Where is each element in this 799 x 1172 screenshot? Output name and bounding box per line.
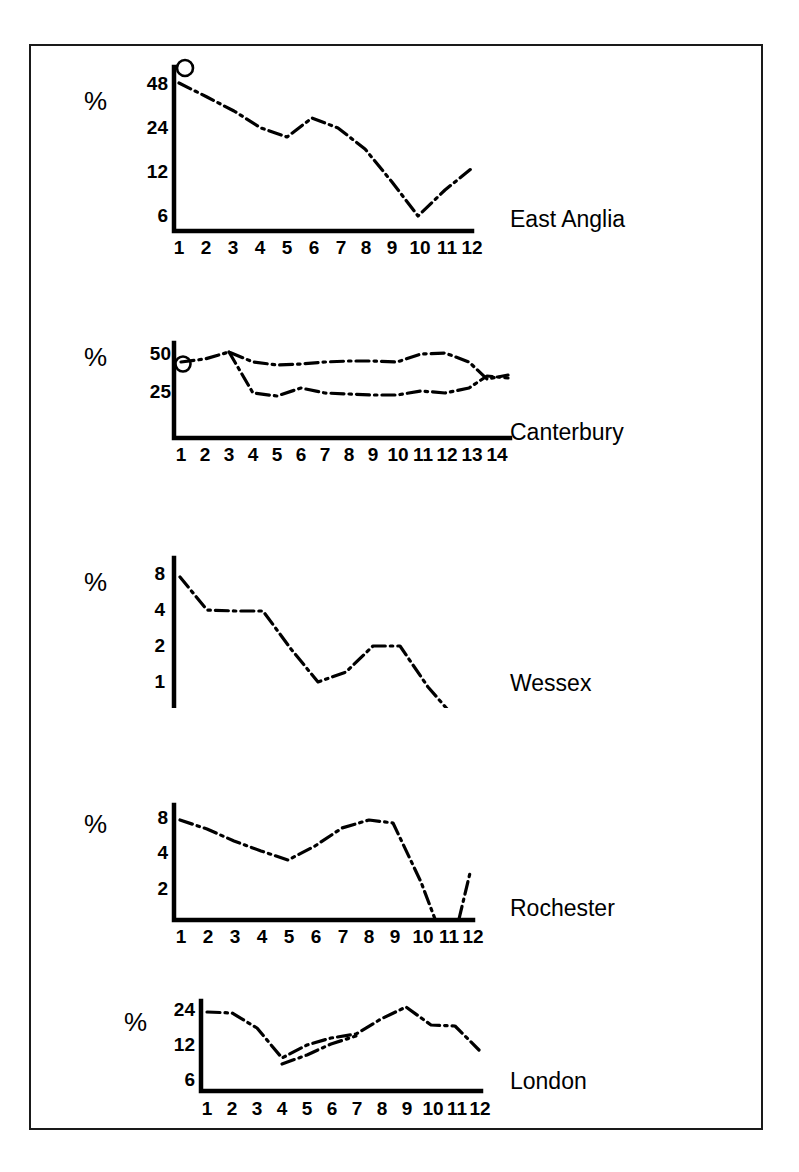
x-tick-london-7: 7 bbox=[352, 1098, 363, 1119]
x-tick-rochester-7: 7 bbox=[338, 926, 349, 945]
x-tick-rochester-10: 10 bbox=[412, 926, 433, 945]
y-tick-canterbury-50: 50 bbox=[150, 343, 171, 364]
x-tick-east-anglia-10: 10 bbox=[409, 237, 430, 258]
region-label-rochester: Rochester bbox=[510, 895, 615, 922]
x-tick-london-8: 8 bbox=[377, 1098, 388, 1119]
x-tick-rochester-3: 3 bbox=[230, 926, 241, 945]
chart-panel-london: % 24 12 6 1 2 3 4 5 6 7 8 bbox=[31, 976, 761, 1121]
data-line-rochester-main bbox=[180, 820, 435, 919]
x-tick-canterbury-12: 12 bbox=[436, 444, 457, 465]
x-tick-canterbury-7: 7 bbox=[320, 444, 331, 465]
x-tick-london-12: 12 bbox=[469, 1098, 490, 1119]
y-tick-east-anglia-6: 6 bbox=[157, 205, 168, 226]
y-tick-wessex-4: 4 bbox=[154, 599, 165, 620]
x-tick-canterbury-10: 10 bbox=[387, 444, 408, 465]
y-unit-label-wessex: % bbox=[84, 567, 107, 597]
svg-london: % 24 12 6 1 2 3 4 5 6 7 8 bbox=[35, 976, 505, 1126]
svg-canterbury: % 50 25 1 2 3 4 5 6 7 8 bbox=[35, 326, 555, 476]
y-unit-label-london: % bbox=[124, 1007, 147, 1037]
y-unit-label-canterbury: % bbox=[84, 342, 107, 372]
x-tick-rochester-12: 12 bbox=[462, 926, 483, 945]
x-tick-canterbury-1: 1 bbox=[176, 444, 187, 465]
figure-frame: % 48 24 12 6 1 2 3 4 5 bbox=[29, 44, 763, 1130]
chart-panel-canterbury: % 50 25 1 2 3 4 5 6 7 8 bbox=[31, 326, 761, 476]
start-marker-circle-east-anglia bbox=[177, 60, 193, 76]
x-tick-rochester-2: 2 bbox=[203, 926, 214, 945]
x-tick-london-1: 1 bbox=[202, 1098, 213, 1119]
data-line-london-upper bbox=[207, 1007, 479, 1058]
x-tick-rochester-1: 1 bbox=[176, 926, 187, 945]
x-tick-london-10: 10 bbox=[422, 1098, 443, 1119]
data-line-east-anglia bbox=[179, 83, 471, 216]
y-tick-wessex-2: 2 bbox=[154, 635, 165, 656]
x-tick-london-5: 5 bbox=[302, 1098, 313, 1119]
chart-panel-east-anglia: % 48 24 12 6 1 2 3 4 5 bbox=[31, 46, 761, 278]
y-tick-east-anglia-48: 48 bbox=[147, 73, 168, 94]
data-line-rochester-rebound bbox=[459, 873, 470, 919]
x-tick-rochester-5: 5 bbox=[284, 926, 295, 945]
y-tick-wessex-8: 8 bbox=[154, 563, 165, 584]
svg-east-anglia: % 48 24 12 6 1 2 3 4 5 bbox=[35, 46, 505, 278]
x-tick-rochester-4: 4 bbox=[257, 926, 268, 945]
y-tick-london-24: 24 bbox=[174, 999, 196, 1020]
x-tick-rochester-9: 9 bbox=[390, 926, 401, 945]
x-tick-rochester-8: 8 bbox=[364, 926, 375, 945]
x-tick-east-anglia-8: 8 bbox=[361, 237, 372, 258]
x-tick-canterbury-4: 4 bbox=[248, 444, 259, 465]
data-line-wessex bbox=[180, 577, 448, 708]
y-tick-wessex-1: 1 bbox=[154, 671, 165, 692]
y-tick-rochester-4: 4 bbox=[157, 842, 168, 863]
y-tick-rochester-8: 8 bbox=[157, 807, 168, 828]
x-tick-london-9: 9 bbox=[402, 1098, 413, 1119]
y-tick-canterbury-25: 25 bbox=[150, 381, 172, 402]
region-label-canterbury: Canterbury bbox=[510, 419, 624, 446]
x-tick-canterbury-14: 14 bbox=[486, 444, 508, 465]
region-label-wessex: Wessex bbox=[510, 670, 591, 697]
axes-wessex bbox=[174, 558, 462, 708]
plot-area-east-anglia: % 48 24 12 6 1 2 3 4 5 bbox=[35, 46, 505, 278]
plot-area-wessex: % 8 4 2 1 1 2 3 4 5 6 7 8 9 10 bbox=[35, 518, 505, 708]
axes-london bbox=[201, 1001, 481, 1091]
x-tick-canterbury-2: 2 bbox=[200, 444, 211, 465]
y-tick-london-12: 12 bbox=[174, 1034, 195, 1055]
x-tick-london-3: 3 bbox=[252, 1098, 263, 1119]
x-tick-east-anglia-9: 9 bbox=[387, 237, 398, 258]
x-tick-london-4: 4 bbox=[277, 1098, 288, 1119]
plot-area-canterbury: % 50 25 1 2 3 4 5 6 7 8 bbox=[35, 326, 555, 476]
x-tick-east-anglia-5: 5 bbox=[282, 237, 293, 258]
y-tick-rochester-2: 2 bbox=[157, 878, 168, 899]
svg-wessex: % 8 4 2 1 1 2 3 4 5 6 7 8 9 10 bbox=[35, 518, 505, 708]
x-tick-rochester-6: 6 bbox=[311, 926, 322, 945]
y-unit-label-rochester: % bbox=[84, 809, 107, 839]
chart-panel-rochester: % 8 4 2 1 2 3 4 5 6 7 8 9 10 bbox=[31, 780, 761, 940]
plot-area-rochester: % 8 4 2 1 2 3 4 5 6 7 8 9 10 bbox=[35, 780, 505, 945]
y-tick-east-anglia-12: 12 bbox=[147, 161, 168, 182]
x-tick-canterbury-8: 8 bbox=[344, 444, 355, 465]
x-tick-london-2: 2 bbox=[227, 1098, 238, 1119]
y-tick-london-6: 6 bbox=[184, 1069, 195, 1090]
x-tick-east-anglia-12: 12 bbox=[461, 237, 482, 258]
plot-area-london: % 24 12 6 1 2 3 4 5 6 7 8 bbox=[35, 976, 505, 1126]
x-tick-east-anglia-7: 7 bbox=[336, 237, 347, 258]
x-tick-east-anglia-6: 6 bbox=[309, 237, 320, 258]
svg-rochester: % 8 4 2 1 2 3 4 5 6 7 8 9 10 bbox=[35, 780, 505, 945]
x-tick-canterbury-5: 5 bbox=[272, 444, 283, 465]
x-tick-canterbury-9: 9 bbox=[368, 444, 379, 465]
x-tick-east-anglia-4: 4 bbox=[255, 237, 266, 258]
x-tick-east-anglia-11: 11 bbox=[437, 237, 458, 258]
start-marker-circle-canterbury bbox=[176, 357, 191, 372]
x-tick-east-anglia-2: 2 bbox=[201, 237, 212, 258]
region-label-east-anglia: East Anglia bbox=[510, 206, 625, 233]
x-tick-canterbury-6: 6 bbox=[296, 444, 307, 465]
x-tick-east-anglia-3: 3 bbox=[228, 237, 239, 258]
x-tick-rochester-11: 11 bbox=[439, 926, 460, 945]
x-tick-london-6: 6 bbox=[327, 1098, 338, 1119]
chart-panel-wessex: % 8 4 2 1 1 2 3 4 5 6 7 8 9 10 bbox=[31, 518, 761, 708]
x-tick-canterbury-13: 13 bbox=[461, 444, 482, 465]
region-label-london: London bbox=[510, 1068, 587, 1095]
figure-page: % 48 24 12 6 1 2 3 4 5 bbox=[0, 0, 799, 1172]
x-tick-london-11: 11 bbox=[447, 1098, 468, 1119]
data-line-canterbury-lower bbox=[229, 352, 508, 396]
y-unit-label-east-anglia: % bbox=[84, 86, 107, 116]
y-tick-east-anglia-24: 24 bbox=[147, 117, 169, 138]
